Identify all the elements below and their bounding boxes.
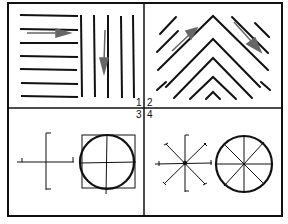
panel-3-axes <box>17 133 74 190</box>
panel-3-label: 3 <box>136 110 142 120</box>
diagram-canvas <box>0 0 288 224</box>
panel-1-arrows <box>27 29 108 73</box>
panel-4-star <box>155 135 212 192</box>
panel-frame <box>8 3 282 216</box>
panel-2-label: 2 <box>147 98 153 108</box>
panel-4-label: 4 <box>147 110 153 120</box>
panel-2-arrows <box>172 22 261 52</box>
panel-2-chevrons <box>157 16 270 99</box>
panel-1-label: 1 <box>136 98 142 108</box>
panel-4-divided-circle <box>215 135 272 193</box>
figure: 1 2 3 4 <box>0 0 288 224</box>
panel-3-circle-in-square <box>79 134 136 194</box>
panel-1-lines <box>20 15 134 98</box>
